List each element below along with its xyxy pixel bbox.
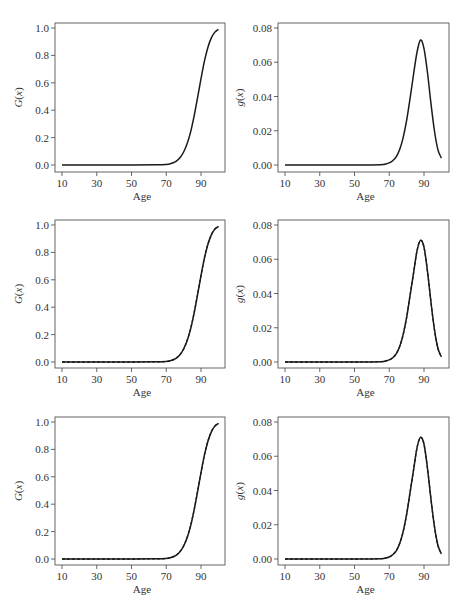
x-tick-label: 10 (280, 373, 292, 385)
y-tick-label: 0.0 (35, 356, 49, 368)
y-tick-label: 0.04 (253, 288, 273, 300)
chart-grid-svg: 0.00.20.40.60.81.01030507090AgeG(x)0.000… (0, 0, 464, 605)
y-tick-label: 0.4 (35, 301, 49, 313)
x-tick-label: 90 (196, 570, 208, 582)
x-tick-label: 10 (280, 570, 292, 582)
panel-row3-left: 0.00.20.40.60.81.01030507090AgeG(x) (12, 416, 225, 595)
y-tick-label: 1.0 (35, 219, 49, 231)
x-axis-label: Age (356, 190, 374, 202)
fitted-curve (62, 226, 218, 362)
x-tick-label: 70 (384, 177, 396, 189)
y-tick-label: 0.0 (35, 159, 49, 171)
fitted-curve (285, 240, 441, 362)
fitted-curve (62, 29, 218, 165)
x-tick-label: 10 (57, 177, 69, 189)
y-tick-label: 0.02 (253, 519, 272, 531)
y-tick-label: 0.08 (253, 22, 273, 34)
x-axis-label: Age (133, 386, 151, 398)
x-tick-label: 70 (161, 373, 173, 385)
panel-row3-right: 0.000.020.040.060.081030507090Ageg(x) (233, 416, 449, 595)
x-tick-label: 70 (384, 570, 396, 582)
x-tick-label: 30 (314, 177, 326, 189)
y-tick-label: 0.02 (253, 322, 272, 334)
y-axis-label: G(x) (12, 87, 25, 108)
y-tick-label: 0.00 (253, 159, 273, 171)
x-tick-label: 70 (161, 570, 173, 582)
y-tick-label: 0.2 (35, 526, 49, 538)
x-tick-label: 50 (349, 373, 361, 385)
estimate-curve (62, 423, 218, 559)
x-tick-label: 10 (57, 373, 69, 385)
y-tick-label: 0.2 (35, 329, 49, 341)
x-tick-label: 50 (349, 570, 361, 582)
x-tick-label: 30 (314, 373, 326, 385)
fitted-curve (62, 423, 218, 559)
x-tick-label: 50 (126, 373, 138, 385)
y-tick-label: 0.04 (253, 485, 273, 497)
panel-row2-right: 0.000.020.040.060.081030507090Ageg(x) (233, 219, 449, 398)
y-tick-label: 0.8 (35, 246, 49, 258)
panel-row1-right: 0.000.020.040.060.081030507090Ageg(x) (233, 22, 449, 202)
x-tick-label: 10 (280, 177, 292, 189)
panel-row2-left: 0.00.20.40.60.81.01030507090AgeG(x) (12, 219, 225, 398)
x-axis-label: Age (133, 190, 151, 202)
x-axis-label: Age (356, 583, 374, 595)
y-tick-label: 0.0 (35, 553, 49, 565)
x-tick-label: 70 (384, 373, 396, 385)
plot-frame (55, 220, 225, 368)
y-tick-label: 0.08 (253, 416, 273, 428)
estimate-curve (62, 226, 218, 362)
y-tick-label: 0.8 (35, 49, 49, 61)
y-tick-label: 0.08 (253, 219, 273, 231)
y-axis-label: G(x) (12, 481, 25, 502)
y-tick-label: 0.06 (253, 56, 273, 68)
x-tick-label: 90 (419, 177, 431, 189)
y-tick-label: 1.0 (35, 416, 49, 428)
y-axis-label: g(x) (233, 285, 246, 303)
plot-frame (55, 417, 225, 565)
estimate-curve (285, 437, 441, 559)
y-tick-label: 0.02 (253, 125, 272, 137)
x-axis-label: Age (356, 386, 374, 398)
y-axis-label: g(x) (233, 482, 246, 500)
y-tick-label: 0.06 (253, 253, 273, 265)
plot-frame (55, 23, 225, 172)
x-tick-label: 30 (91, 177, 103, 189)
y-tick-label: 0.04 (253, 91, 273, 103)
y-tick-label: 0.2 (35, 132, 49, 144)
x-tick-label: 90 (196, 177, 208, 189)
y-tick-label: 0.6 (35, 471, 49, 483)
chart-figure: 0.00.20.40.60.81.01030507090AgeG(x)0.000… (0, 0, 464, 605)
x-tick-label: 70 (161, 177, 173, 189)
x-tick-label: 90 (419, 373, 431, 385)
x-tick-label: 50 (126, 177, 138, 189)
x-tick-label: 30 (314, 570, 326, 582)
fitted-curve (285, 437, 441, 559)
fitted-curve (285, 40, 441, 165)
x-tick-label: 90 (419, 570, 431, 582)
x-tick-label: 30 (91, 570, 103, 582)
y-tick-label: 0.00 (253, 356, 273, 368)
y-tick-label: 0.6 (35, 77, 49, 89)
estimate-curve (285, 240, 441, 362)
y-tick-label: 0.4 (35, 104, 49, 116)
y-axis-label: g(x) (233, 88, 246, 106)
y-tick-label: 1.0 (35, 22, 49, 34)
y-tick-label: 0.00 (253, 553, 273, 565)
plot-frame (278, 220, 449, 368)
x-tick-label: 30 (91, 373, 103, 385)
x-tick-label: 90 (196, 373, 208, 385)
panel-row1-left: 0.00.20.40.60.81.01030507090AgeG(x) (12, 22, 225, 202)
x-tick-label: 10 (57, 570, 69, 582)
plot-frame (278, 417, 449, 565)
y-tick-label: 0.06 (253, 450, 273, 462)
y-tick-label: 0.6 (35, 274, 49, 286)
y-axis-label: G(x) (12, 284, 25, 305)
x-tick-label: 50 (126, 570, 138, 582)
y-tick-label: 0.8 (35, 443, 49, 455)
x-axis-label: Age (133, 583, 151, 595)
x-tick-label: 50 (349, 177, 361, 189)
y-tick-label: 0.4 (35, 498, 49, 510)
